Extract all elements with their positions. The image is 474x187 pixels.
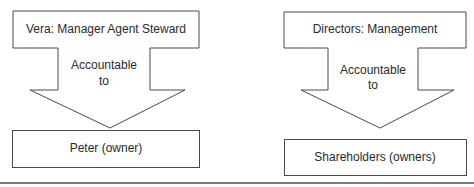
left-bottom-label: Peter (owner) [13,141,199,156]
right-top-label: Directors: Management [284,22,466,37]
left-arrow-label-line2: to [58,74,150,89]
right-arrow-label-line2: to [328,78,418,93]
right-arrow-label-line1: Accountable [328,63,418,78]
left-top-label: Vera: Manager Agent Steward [13,22,199,37]
right-bottom-label: Shareholders (owners) [284,150,466,165]
left-arrow-label-line1: Accountable [58,58,150,73]
